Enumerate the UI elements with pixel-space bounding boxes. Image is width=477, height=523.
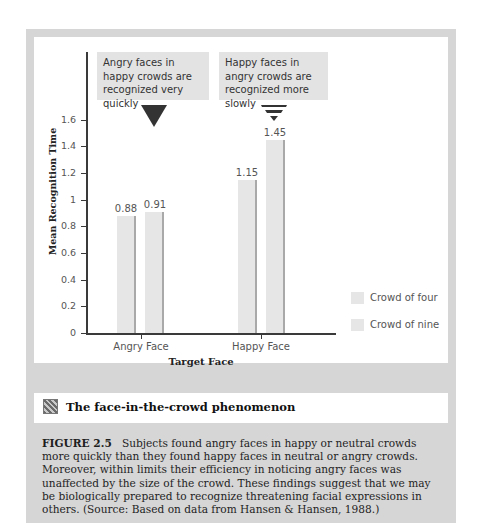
y-tick [81,120,87,121]
y-axis-title: Mean Recognition Time [47,122,58,262]
bar-value-label: 1.45 [255,127,295,138]
y-tick-label: 0.4 [36,275,76,285]
x-category-label: Angry Face [96,341,186,352]
y-tick [81,173,87,174]
y-tick [81,253,87,254]
y-tick-label: 0 [36,328,76,338]
legend-label: Crowd of four [370,292,438,303]
x-axis-title: Target Face [151,356,251,367]
legend-swatch-crowd-four [351,292,364,304]
y-axis [86,52,88,334]
bar-value-label: 1.15 [227,167,267,178]
x-tick [141,334,142,339]
bar-happy-crowd-four [238,180,257,333]
face-in-crowd-thumbnail-icon [43,399,58,414]
y-tick [81,200,87,201]
y-tick-label: 0.2 [36,301,76,311]
figure-number: FIGURE 2.5 [42,437,112,449]
bar-happy-crowd-nine [266,140,285,333]
striped-down-triangle-icon [260,104,288,122]
y-tick [81,280,87,281]
y-tick [81,306,87,307]
x-category-label: Happy Face [216,341,306,352]
legend-swatch-crowd-nine [351,319,364,331]
figure-caption: FIGURE 2.5 Subjects found angry faces in… [42,437,442,516]
y-tick [81,333,87,334]
annotation-happy: Happy faces in angry crowds are recogniz… [219,52,328,100]
bar-angry-crowd-four [117,216,136,333]
bar-value-label: 0.91 [135,199,175,210]
figure-title: The face-in-the-crowd phenomenon [66,400,295,414]
y-tick [81,146,87,147]
y-tick [81,226,87,227]
x-axis [86,333,336,335]
bar-angry-crowd-nine [145,212,164,333]
legend-label: Crowd of nine [370,319,439,330]
x-tick [261,334,262,339]
annotation-angry: Angry faces in happy crowds are recogniz… [97,52,209,100]
solid-down-triangle-icon [140,104,168,128]
